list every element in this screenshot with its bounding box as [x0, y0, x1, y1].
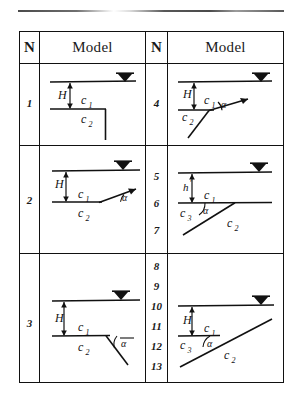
- row-number-3: 3: [20, 317, 39, 329]
- svg-text:c: c: [180, 206, 186, 220]
- svg-text:1: 1: [212, 329, 216, 338]
- svg-text:H: H: [182, 87, 193, 101]
- svg-text:α: α: [207, 338, 213, 349]
- svg-text:1: 1: [86, 328, 90, 337]
- svg-text:c: c: [78, 340, 84, 354]
- svg-text:c: c: [180, 338, 186, 352]
- svg-text:2: 2: [235, 224, 239, 233]
- model-diagram-5-7: h ′ c 1 c 3 c 2 α: [172, 157, 284, 243]
- row-number-7: 7: [146, 224, 167, 236]
- row-number-4: 4: [146, 97, 167, 109]
- row-number-12: 12: [146, 340, 167, 352]
- row-number-8: 8: [146, 260, 167, 272]
- page-top-rule: [18, 10, 284, 12]
- vertical-divider-left-n: [39, 32, 40, 382]
- svg-text:c: c: [204, 188, 210, 202]
- svg-text:α: α: [122, 192, 128, 203]
- svg-text:h: h: [183, 181, 189, 193]
- scanned-page: N Model N Model 1: [0, 0, 301, 406]
- svg-text:α: α: [221, 99, 227, 110]
- svg-text:c: c: [227, 216, 233, 230]
- row-number-9: 9: [146, 280, 167, 292]
- horizontal-divider-row1: [20, 145, 283, 146]
- header-cell-n-right: N: [146, 32, 167, 63]
- header-label-n-right: N: [151, 39, 162, 56]
- vertical-divider-right-n: [167, 32, 168, 382]
- svg-text:3: 3: [187, 346, 192, 355]
- svg-text:1: 1: [212, 101, 216, 110]
- svg-text:1: 1: [212, 196, 216, 205]
- svg-text:c: c: [182, 110, 188, 124]
- header-label-model-right: Model: [205, 39, 246, 56]
- svg-text:c: c: [81, 112, 87, 126]
- row-number-13: 13: [146, 360, 167, 372]
- svg-text:1: 1: [86, 195, 90, 204]
- svg-text:c: c: [78, 206, 84, 220]
- svg-text:H: H: [54, 177, 65, 191]
- horizontal-divider-row2: [20, 253, 283, 254]
- row-number-11: 11: [146, 320, 167, 332]
- svg-text:1: 1: [89, 101, 93, 110]
- header-cell-model-right: Model: [168, 32, 283, 63]
- svg-text:α: α: [203, 205, 209, 216]
- model-diagram-2: H c 1 c 2 α: [44, 157, 144, 243]
- row-number-1: 1: [20, 97, 39, 109]
- svg-text:c: c: [78, 320, 84, 334]
- svg-text:c: c: [204, 321, 210, 335]
- header-cell-model-left: Model: [40, 32, 145, 63]
- svg-text:c: c: [224, 348, 230, 362]
- header-label-model-left: Model: [72, 39, 113, 56]
- svg-text:2: 2: [89, 120, 93, 129]
- row-number-5: 5: [146, 170, 167, 182]
- row-number-2: 2: [20, 194, 39, 206]
- svg-text:2: 2: [190, 118, 194, 127]
- svg-text:2: 2: [86, 214, 90, 223]
- svg-text:H: H: [57, 88, 68, 102]
- model-diagram-8-13: H c 1 c 3 c 2 α: [172, 277, 284, 377]
- header-label-n-left: N: [24, 39, 35, 56]
- svg-text:c: c: [204, 93, 210, 107]
- horizontal-divider-header: [20, 63, 283, 64]
- svg-text:c: c: [78, 187, 84, 201]
- header-cell-n-left: N: [20, 32, 39, 63]
- model-table: N Model N Model 1: [19, 31, 284, 383]
- svg-text:H: H: [54, 311, 65, 325]
- svg-text:2: 2: [232, 356, 236, 365]
- row-number-10: 10: [146, 300, 167, 312]
- svg-text:2: 2: [86, 348, 90, 357]
- svg-text:c: c: [81, 93, 87, 107]
- svg-text:α: α: [121, 338, 127, 349]
- model-diagram-1: H c 1 c 2: [44, 68, 144, 142]
- model-diagram-3: H c 1 c 2 α: [44, 277, 144, 377]
- svg-text:H: H: [182, 313, 193, 327]
- model-diagram-4: H c 1 c 2 α: [172, 68, 282, 142]
- row-number-6: 6: [146, 197, 167, 209]
- svg-text:3: 3: [187, 214, 192, 223]
